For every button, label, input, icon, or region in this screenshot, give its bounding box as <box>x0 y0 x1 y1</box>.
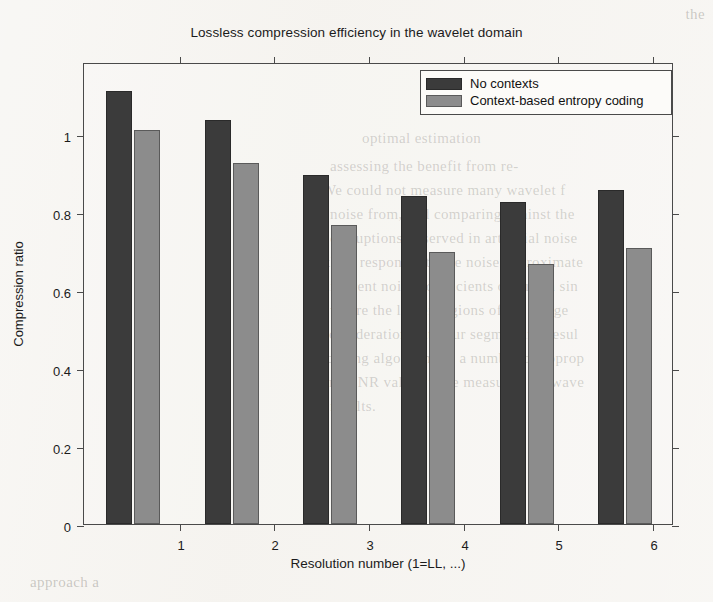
bar-no-contexts-3 <box>303 175 329 524</box>
x-tick-top-3 <box>369 57 370 64</box>
bar-no-contexts-1 <box>106 91 132 524</box>
bar-no-contexts-5 <box>500 202 526 524</box>
y-axis-label: Compression ratio <box>11 241 26 347</box>
x-axis-label: Resolution number (1=LL, ...) <box>83 556 673 571</box>
bar-context-based-2 <box>233 163 259 524</box>
x-tick-1: 1 <box>180 524 181 531</box>
legend-label-series-2: Context-based entropy coding <box>470 93 643 108</box>
x-tick-top-6 <box>653 57 654 64</box>
y-tick-label-3: 0.6 <box>53 286 71 301</box>
legend-swatch-icon-series-1 <box>426 78 462 90</box>
bar-context-based-4 <box>429 252 455 524</box>
x-tick-2: 2 <box>274 524 275 531</box>
bar-context-based-6 <box>626 248 652 524</box>
x-tick-label-6: 6 <box>650 538 657 553</box>
x-tick-label-2: 2 <box>271 538 278 553</box>
x-tick-top-5 <box>558 57 559 64</box>
legend-item-context-based: Context-based entropy coding <box>426 92 666 109</box>
x-tick-6: 6 <box>653 524 654 531</box>
bar-series-container <box>84 64 672 524</box>
x-tick-top-1 <box>180 57 181 64</box>
bar-no-contexts-6 <box>598 190 624 524</box>
chart-legend: No contexts Context-based entropy coding <box>420 70 672 115</box>
y-tick-label-5: 1 <box>64 130 71 145</box>
x-tick-top-4 <box>464 57 465 64</box>
y-tick-5: 1 <box>77 136 84 137</box>
legend-item-no-contexts: No contexts <box>426 75 666 92</box>
y-tick-0: 0 <box>77 526 84 527</box>
legend-swatch-icon-series-2 <box>426 95 462 107</box>
x-tick-label-3: 3 <box>366 538 373 553</box>
y-tick-label-1: 0.2 <box>53 442 71 457</box>
bar-chart-figure: Lossless compression efficiency in the w… <box>0 0 713 602</box>
bar-context-based-3 <box>331 225 357 524</box>
y-tick-right-2 <box>672 370 679 371</box>
chart-title: Lossless compression efficiency in the w… <box>0 25 713 40</box>
y-tick-right-5 <box>672 136 679 137</box>
legend-label-series-1: No contexts <box>470 76 539 91</box>
y-tick-right-1 <box>672 448 679 449</box>
x-tick-top-2 <box>274 57 275 64</box>
plot-area: 0 0.2 0.4 0.6 0.8 1 1 2 3 <box>83 63 673 525</box>
y-tick-1: 0.2 <box>77 448 84 449</box>
x-tick-4: 4 <box>464 524 465 531</box>
y-tick-right-3 <box>672 292 679 293</box>
y-tick-right-0 <box>672 526 679 527</box>
y-tick-2: 0.4 <box>77 370 84 371</box>
bar-context-based-1 <box>134 130 160 524</box>
x-tick-label-5: 5 <box>555 538 562 553</box>
x-tick-label-4: 4 <box>461 538 468 553</box>
y-tick-4: 0.8 <box>77 214 84 215</box>
x-tick-3: 3 <box>369 524 370 531</box>
y-tick-label-4: 0.8 <box>53 208 71 223</box>
x-tick-5: 5 <box>558 524 559 531</box>
y-tick-right-4 <box>672 214 679 215</box>
x-tick-label-1: 1 <box>177 538 184 553</box>
y-tick-3: 0.6 <box>77 292 84 293</box>
bar-context-based-5 <box>528 264 554 524</box>
y-tick-label-2: 0.4 <box>53 364 71 379</box>
y-tick-label-0: 0 <box>64 520 71 535</box>
bar-no-contexts-4 <box>401 196 427 524</box>
bar-no-contexts-2 <box>205 120 231 524</box>
